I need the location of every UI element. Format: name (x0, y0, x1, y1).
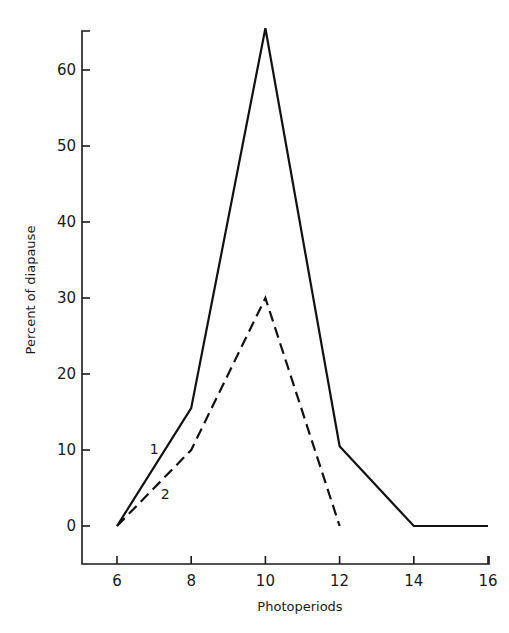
line-chart: 0102030405060 6810121416 12 Photoperiods… (0, 0, 509, 633)
x-tick-label: 16 (478, 572, 497, 590)
x-tick-label: 12 (330, 572, 349, 590)
x-axis-title: Photoperiods (257, 599, 342, 614)
y-axis-title: Percent of diapause (23, 226, 38, 355)
y-axis-ticks: 0102030405060 (57, 61, 90, 535)
series-labels: 12 (150, 441, 170, 503)
y-tick-label: 40 (57, 213, 76, 231)
x-axis-ticks: 6810121416 (112, 556, 497, 590)
x-tick-label: 8 (186, 572, 196, 590)
y-tick-label: 10 (57, 441, 76, 459)
x-tick-label: 10 (256, 572, 275, 590)
series-line-2 (117, 298, 340, 526)
series-label-1: 1 (150, 441, 159, 457)
y-tick-label: 60 (57, 61, 76, 79)
series-label-2: 2 (161, 486, 170, 502)
x-tick-label: 6 (112, 572, 122, 590)
y-tick-label: 20 (57, 365, 76, 383)
y-tick-label: 50 (57, 137, 76, 155)
x-tick-label: 14 (404, 572, 423, 590)
y-tick-label: 0 (66, 517, 76, 535)
series-lines (117, 28, 488, 526)
y-tick-label: 30 (57, 289, 76, 307)
series-line-1 (117, 28, 488, 526)
